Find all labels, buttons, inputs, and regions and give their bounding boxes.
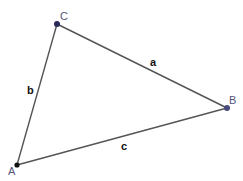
side-c-label: c: [121, 140, 127, 152]
side-b: [17, 24, 57, 165]
side-a: [57, 24, 227, 108]
triangle-diagram: C B A a b c: [0, 0, 243, 181]
side-a-label: a: [150, 56, 157, 68]
side-b-label: b: [27, 84, 34, 96]
vertex-b-label: B: [229, 94, 236, 106]
side-c: [17, 108, 227, 165]
vertex-c-label: C: [60, 10, 68, 22]
vertex-a-label: A: [8, 165, 16, 177]
